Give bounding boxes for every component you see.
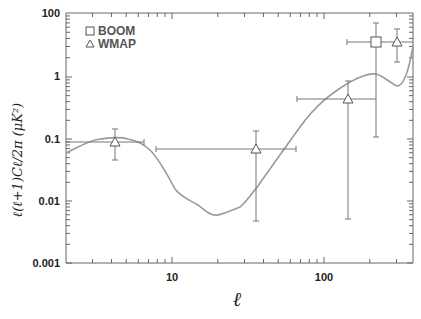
y-tick-0.01: 0.01: [39, 195, 60, 207]
boom-legend-icon: [86, 27, 94, 35]
model-curve: [66, 46, 413, 215]
x-tick-10: 10: [166, 271, 178, 283]
y-tick-100: 100: [42, 7, 60, 19]
legend-wmap: WMAP: [98, 37, 136, 51]
legend: BOOM WMAP: [86, 24, 136, 51]
y-tick-0.1: 0.1: [45, 133, 60, 145]
y-tick-1: 1: [54, 70, 60, 82]
x-tick-100: 100: [315, 271, 333, 283]
y-axis-labels: 100 1 0.1 0.01 0.001: [32, 7, 60, 269]
error-bars: [66, 23, 413, 221]
legend-boom: BOOM: [98, 24, 135, 38]
x-axis-title: ℓ: [233, 287, 242, 311]
boom-marker-1: [371, 37, 381, 47]
chart: 100 1 0.1 0.01 0.001 10 100 ℓ ℓ(ℓ+1)Cℓ/2…: [0, 0, 421, 319]
y-tick-0.001: 0.001: [32, 257, 60, 269]
wmap-legend-icon: [86, 40, 94, 47]
y-axis-title: ℓ(ℓ+1)Cℓ/2π (μK²): [10, 103, 25, 217]
x-axis-labels: 10 100: [166, 271, 333, 283]
